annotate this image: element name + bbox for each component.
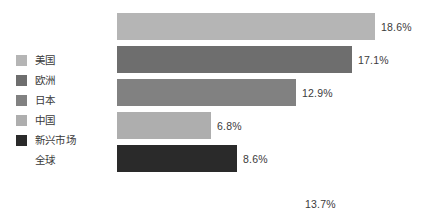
- bar-row[interactable]: 18.6%: [117, 13, 412, 40]
- bar-value-label: 6.8%: [217, 120, 242, 132]
- chart-legend: 美国 欧洲 日本 中国 新兴市场 全球: [16, 50, 108, 170]
- bar-row[interactable]: 17.1%: [117, 46, 389, 73]
- legend-item-quanqiu[interactable]: 全球: [16, 150, 108, 170]
- bar-value-label: 8.6%: [243, 153, 268, 165]
- bar-row[interactable]: 12.9%: [117, 79, 333, 106]
- legend-item-riben[interactable]: 日本: [16, 90, 108, 110]
- bar-row[interactable]: 13.7%: [117, 190, 336, 211]
- legend-item-ouzhou[interactable]: 欧洲: [16, 70, 108, 90]
- bar-value-label: 17.1%: [358, 54, 389, 66]
- legend-label-zhongguo: 中国: [35, 115, 55, 126]
- chart-plot-area: 18.6% 17.1% 12.9% 6.8% 8.6% 13.7%: [117, 13, 417, 203]
- legend-swatch-ouzhou: [16, 75, 27, 86]
- bar-meiguo[interactable]: [117, 13, 375, 40]
- bar-value-label: 18.6%: [381, 21, 412, 33]
- legend-swatch-meiguo: [16, 55, 27, 66]
- bar-value-label: 12.9%: [302, 87, 333, 99]
- legend-swatch-zhongguo: [16, 115, 27, 126]
- legend-label-riben: 日本: [35, 95, 55, 106]
- bar-riben[interactable]: [117, 79, 296, 106]
- bar-value-label: 13.7%: [305, 198, 336, 210]
- legend-label-ouzhou: 欧洲: [35, 75, 55, 86]
- legend-swatch-riben: [16, 95, 27, 106]
- bar-row[interactable]: 8.6%: [117, 145, 268, 172]
- bar-ouzhou[interactable]: [117, 46, 352, 73]
- legend-item-zhongguo[interactable]: 中国: [16, 110, 108, 130]
- bar-zhongguo[interactable]: [117, 112, 211, 139]
- legend-swatch-quanqiu: [16, 155, 27, 166]
- legend-label-quanqiu: 全球: [35, 155, 55, 166]
- legend-item-meiguo[interactable]: 美国: [16, 50, 108, 70]
- legend-label-meiguo: 美国: [35, 55, 55, 66]
- legend-swatch-xinxingshichang: [16, 135, 27, 146]
- legend-label-xinxingshichang: 新兴市场: [35, 135, 76, 146]
- bar-row[interactable]: 6.8%: [117, 112, 242, 139]
- legend-item-xinxingshichang[interactable]: 新兴市场: [16, 130, 108, 150]
- bar-chart: 美国 欧洲 日本 中国 新兴市场 全球 18.6% 17.: [0, 0, 424, 211]
- bar-xinxingshichang[interactable]: [117, 145, 237, 172]
